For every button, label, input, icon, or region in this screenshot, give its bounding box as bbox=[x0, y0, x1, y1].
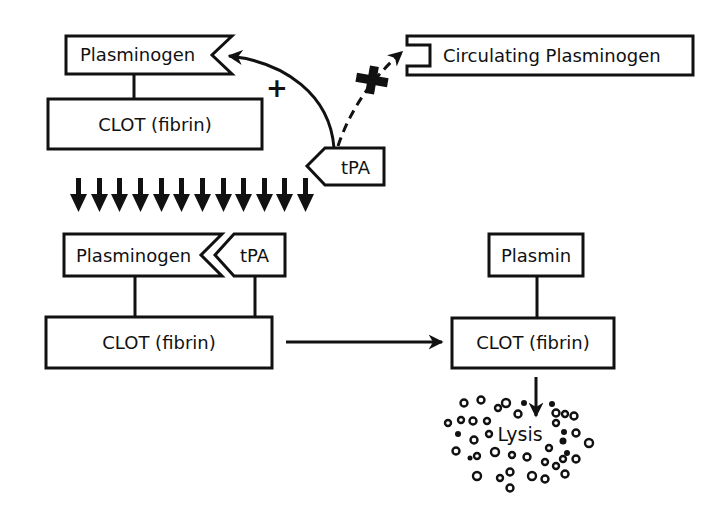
tpa-label: tPA bbox=[341, 157, 371, 178]
clot-label: CLOT (fibrin) bbox=[102, 332, 215, 353]
plasminogen-label: Plasminogen bbox=[80, 44, 195, 65]
transition-arrows-row bbox=[70, 178, 314, 212]
circulating-plasminogen-node: Circulating Plasminogen bbox=[407, 36, 693, 75]
down-arrow-icon bbox=[111, 178, 128, 212]
lysis-label: Lysis bbox=[497, 423, 542, 445]
clot-label: CLOT (fibrin) bbox=[98, 114, 211, 135]
down-arrow-icon bbox=[256, 178, 273, 212]
clot-label: CLOT (fibrin) bbox=[476, 332, 589, 353]
bottom-left-clot-node: CLOT (fibrin) bbox=[46, 317, 272, 368]
down-arrow-icon bbox=[153, 178, 170, 212]
tpa-fibrinolysis-diagram: Plasminogen CLOT (fibrin) + Circulating … bbox=[0, 0, 721, 508]
down-arrow-icon bbox=[235, 178, 252, 212]
down-arrow-icon bbox=[297, 178, 314, 212]
down-arrow-icon bbox=[194, 178, 211, 212]
promotes-plus-sign: + bbox=[266, 73, 288, 103]
top-plasminogen-node: Plasminogen bbox=[66, 36, 232, 74]
down-arrow-icon bbox=[70, 178, 87, 212]
bottom-plasminogen-node: Plasminogen bbox=[64, 234, 222, 276]
down-arrow-icon bbox=[132, 178, 149, 212]
tpa-label: tPA bbox=[240, 245, 270, 266]
down-arrow-icon bbox=[276, 178, 293, 212]
top-tpa-node: tPA bbox=[307, 148, 384, 185]
plasminogen-label: Plasminogen bbox=[76, 245, 191, 266]
bottom-right-clot-node: CLOT (fibrin) bbox=[452, 318, 614, 368]
plasmin-label: Plasmin bbox=[501, 245, 571, 266]
bottom-tpa-node: tPA bbox=[215, 234, 285, 276]
down-arrow-icon bbox=[215, 178, 232, 212]
top-clot-node: CLOT (fibrin) bbox=[48, 99, 262, 149]
plasmin-node: Plasmin bbox=[489, 234, 583, 276]
down-arrow-icon bbox=[91, 178, 108, 212]
circulating-label: Circulating Plasminogen bbox=[443, 45, 661, 66]
down-arrow-icon bbox=[173, 178, 190, 212]
